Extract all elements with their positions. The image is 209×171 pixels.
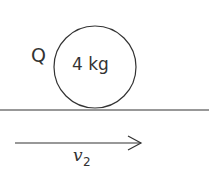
diagram-canvas: Q 4 kg v 2 [0, 0, 209, 171]
velocity-symbol: v [73, 145, 83, 165]
mass-label: 4 kg [72, 54, 109, 74]
velocity-subscript: 2 [83, 155, 91, 169]
object-label: Q [31, 44, 46, 66]
